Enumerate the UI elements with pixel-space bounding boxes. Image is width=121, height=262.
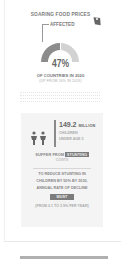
must-double-badge: MUST DOUBLE xyxy=(50,194,74,200)
suffer-line: SUFFER FROM STUNTING xyxy=(21,152,103,157)
children-icon xyxy=(29,131,49,145)
goal-line-2: CHILDREN BY 50% BY 2030, xyxy=(21,179,103,183)
dotted-divider xyxy=(20,101,100,102)
from-rate-text: (FROM 2.1 TO 3.9% PER YEAR) xyxy=(21,204,103,208)
stunting-card: 149.2 MILLION CHILDREN UNDER AGE 5 SUFFE… xyxy=(21,113,103,227)
left-border-line xyxy=(4,0,5,242)
bottom-bar xyxy=(20,256,108,259)
leader-line xyxy=(42,24,49,25)
donut-subcaption: (UP FROM 16% IN 2019) xyxy=(0,79,121,83)
accent-bar xyxy=(54,120,56,147)
bottom-divider xyxy=(4,241,121,242)
stunting-highlight: STUNTING xyxy=(65,152,88,157)
dotted-divider xyxy=(20,95,100,96)
dotted-divider xyxy=(20,98,100,99)
goal-line-3: ANNUAL RATE OF DECLINE xyxy=(21,186,103,190)
age-label: UNDER AGE 5 xyxy=(59,137,83,141)
costs-label: COSTS xyxy=(21,158,103,162)
dotted-divider xyxy=(20,92,100,93)
price-tag-icon xyxy=(93,15,103,27)
donut-caption: OF COUNTRIES IN 2020 xyxy=(0,73,121,78)
big-number: 149.2 MILLION xyxy=(59,121,96,128)
percent-value: 47% xyxy=(9,58,112,69)
subhead-affected: AFFECTED xyxy=(50,21,74,27)
goal-line-1: TO REDUCE STUNTING IN xyxy=(21,172,103,176)
leader-line-vertical xyxy=(42,24,43,42)
children-label: CHILDREN xyxy=(59,131,78,135)
card-divider xyxy=(33,168,91,169)
